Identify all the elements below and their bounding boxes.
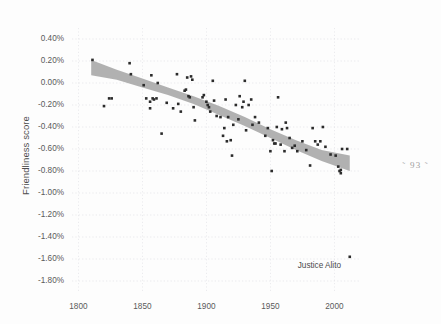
y-tick-label: -0.80%: [20, 166, 64, 175]
y-tick-label: -1.00%: [20, 188, 64, 197]
x-tick-label: 1900: [186, 302, 226, 311]
page-number: ˜ 93 ˜: [402, 160, 429, 170]
y-tick-label: -0.20%: [20, 100, 64, 109]
y-tick-label: -1.80%: [20, 276, 64, 285]
x-tick-label: 1950: [250, 302, 290, 311]
y-tick-label: 0.20%: [20, 56, 64, 65]
annotation-justice-alito: Justice Alito: [298, 261, 341, 270]
y-tick-label: -1.60%: [20, 254, 64, 263]
x-tick-label: 2000: [314, 302, 354, 311]
x-tick-label: 1800: [58, 302, 98, 311]
y-tick-label: -1.40%: [20, 232, 64, 241]
y-tick-label: -1.20%: [20, 210, 64, 219]
scatter-plot-figure: Friendliness score 0.40%0.20%0.00%-0.20%…: [0, 0, 370, 324]
x-tick-label: 1850: [122, 302, 162, 311]
book-page: Friendliness score 0.40%0.20%0.00%-0.20%…: [0, 0, 441, 324]
y-tick-label: 0.40%: [20, 34, 64, 43]
trend-confidence-band: [91, 60, 350, 171]
y-tick-label: -0.40%: [20, 122, 64, 131]
scatter-points: [91, 59, 351, 259]
gridlines: [72, 28, 360, 292]
y-tick-label: -0.60%: [20, 144, 64, 153]
y-tick-label: 0.00%: [20, 78, 64, 87]
y-axis-title: Friendliness score: [20, 91, 31, 221]
